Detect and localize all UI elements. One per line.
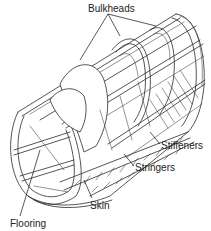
rear-bulkhead-ring [172, 14, 204, 132]
skin-leader [84, 180, 92, 198]
label-skin: Skin [90, 200, 109, 211]
flooring-leader [20, 150, 40, 216]
label-stiffeners: Stiffeners [161, 140, 203, 151]
label-stringers: Stringers [135, 162, 175, 173]
front-frame-members [14, 126, 74, 192]
stiffeners-leader [150, 132, 160, 144]
fuselage-structure-drawing [0, 0, 211, 231]
bulkheads-leader [80, 14, 156, 60]
middle-bulkheads [60, 28, 174, 152]
side-stiffeners [100, 70, 198, 150]
label-bulkheads: Bulkheads [88, 3, 135, 14]
label-flooring: Flooring [10, 218, 46, 229]
